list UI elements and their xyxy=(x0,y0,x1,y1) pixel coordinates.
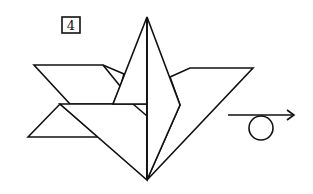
central-spike-left xyxy=(113,17,147,104)
turn-over-symbol xyxy=(228,110,294,140)
step-number-badge: 4 xyxy=(62,17,80,33)
step-number: 4 xyxy=(67,18,75,33)
lower-body xyxy=(60,104,147,180)
origami-diagram: 4 xyxy=(0,0,313,194)
turn-over-loop-icon xyxy=(249,116,273,140)
upper-left-flap xyxy=(34,65,124,104)
